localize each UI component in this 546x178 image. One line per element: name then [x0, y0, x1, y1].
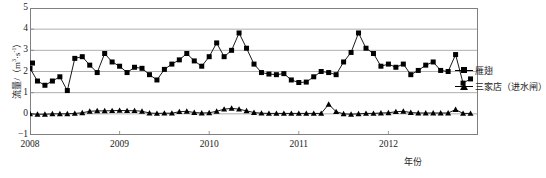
x-axis-tick-label: 2011: [289, 139, 308, 149]
x-axis-tick-label: 2010: [200, 139, 219, 149]
y-axis-tick-label: 2: [2, 67, 28, 77]
y-axis-tick-label: 3: [2, 45, 28, 55]
triangle-marker-icon: [455, 80, 473, 92]
legend-label-yanchi: 雁翅: [475, 64, 493, 77]
chart-legend: 雁翅 三家店（进水闸）: [455, 62, 535, 94]
y-axis-tick-label: 5: [2, 3, 28, 13]
y-axis-tick-labels: 543210−1: [0, 8, 28, 135]
legend-label-sanjiadian: 三家店（进水闸）: [475, 80, 546, 93]
y-axis-tick-label: 4: [2, 24, 28, 34]
legend-item-sanjiadian: 三家店（进水闸）: [455, 78, 535, 94]
y-axis-tick-label: 0: [2, 109, 28, 119]
x-axis-title: 年份: [404, 155, 422, 168]
x-axis-tick-label: 2012: [379, 139, 398, 149]
series-yanchi: [30, 30, 473, 93]
x-axis-tick-labels: 20082009201020112012: [30, 139, 478, 153]
x-axis-tick-label: 2008: [21, 139, 40, 149]
plot-area: [30, 8, 478, 135]
plot-svg: [30, 8, 478, 135]
y-axis-tick-label: 1: [2, 88, 28, 98]
legend-item-yanchi: 雁翅: [455, 62, 535, 78]
series-sanjiadian: [30, 101, 474, 116]
square-marker-icon: [455, 64, 473, 76]
x-axis-tick-label: 2009: [110, 139, 129, 149]
